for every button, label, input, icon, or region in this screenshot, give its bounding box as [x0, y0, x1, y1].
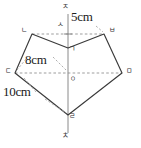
leader-line-10cm-bottom: [45, 99, 66, 113]
vertex-label-g: ㄱ: [69, 46, 75, 53]
vertex-label-r: ㄹ: [69, 113, 75, 120]
leader-line-5cm: [96, 26, 103, 32]
geometry-figure-canvas: ㄴ ㅂ ㄱ ㅁ ㄷ ㄹ ㅇ ㅅ ㅈ ㅊ 5cm 8cm 10cm: [0, 0, 141, 148]
leader-line-8cm-right: [53, 57, 66, 70]
vertex-label-d: ㄷ: [5, 68, 11, 75]
axis-endpoint-label-ch: ㅊ: [62, 132, 69, 140]
axis-endpoint-label-j: ㅈ: [62, 3, 69, 11]
measurement-label-8cm: 8cm: [25, 53, 46, 66]
vertex-label-b: ㅂ: [109, 27, 115, 34]
vertex-label-m: ㅁ: [126, 68, 132, 75]
axis-point-label-s: ㅅ: [57, 21, 64, 29]
vertex-label-n: ㄴ: [21, 27, 27, 34]
measurement-label-5cm: 5cm: [71, 10, 92, 23]
measurement-label-10cm: 10cm: [3, 85, 31, 98]
center-label-o: ㅇ: [70, 76, 76, 83]
